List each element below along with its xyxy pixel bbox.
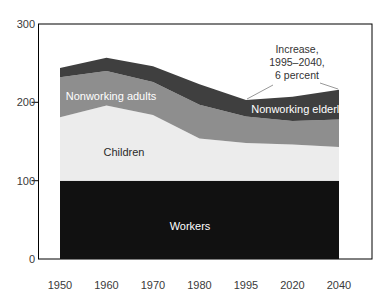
nonworking-adults-label: Nonworking adults [66, 90, 157, 102]
workers-label: Workers [170, 220, 211, 232]
dependency-ratio-chart: 0 100 200 300 1950 1960 1970 1980 1995 2… [0, 0, 379, 301]
y-axis-label-0: 0 [29, 253, 35, 265]
annotation-line-2: 1995–2040, [269, 56, 324, 68]
y-axis-label-200: 200 [17, 96, 35, 108]
x-axis-label-1970: 1970 [141, 279, 165, 291]
annotation-line-1: Increase, [275, 43, 318, 55]
x-axis-label-1960: 1960 [94, 279, 118, 291]
y-axis-label-300: 300 [17, 18, 35, 30]
children-label: Children [104, 146, 145, 158]
x-axis-label-1980: 1980 [187, 279, 211, 291]
x-axis-label-1995: 1995 [234, 279, 258, 291]
x-axis-label-1950: 1950 [48, 279, 72, 291]
x-axis-label-2020: 2020 [280, 279, 304, 291]
nonworking-elderly-label: Nonworking elderly [251, 103, 345, 115]
chart-canvas: 0 100 200 300 1950 1960 1970 1980 1995 2… [0, 0, 379, 301]
annotation-line-3: 6 percent [275, 69, 319, 81]
x-axis-label-2040: 2040 [327, 279, 351, 291]
y-axis-label-100: 100 [17, 175, 35, 187]
